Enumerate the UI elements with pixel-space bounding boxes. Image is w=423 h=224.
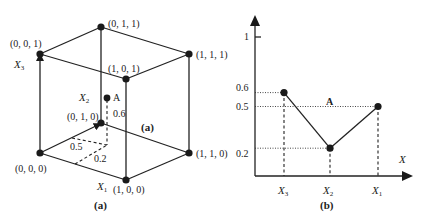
vertex-001 bbox=[36, 50, 43, 57]
caption-a: (a) bbox=[94, 199, 107, 212]
vertex-011 bbox=[97, 23, 104, 30]
label-100: (1, 0, 0) bbox=[113, 184, 145, 196]
figure: (0, 0, 0) (0, 1, 0) (0, 0, 1) (0, 1, 1) … bbox=[0, 0, 423, 224]
edge-011-111 bbox=[101, 27, 189, 54]
edge-100-110 bbox=[126, 153, 189, 180]
x-tick-label-x1: X1 bbox=[371, 184, 383, 198]
y-tick-label-0.6: 0.6 bbox=[236, 82, 249, 93]
axis-label-x1: X1 bbox=[96, 180, 108, 194]
data-point-X3 bbox=[280, 89, 287, 96]
x-axis-label: X bbox=[398, 153, 407, 165]
dim-label-x1: 0.2 bbox=[94, 153, 107, 164]
edge-000-100 bbox=[40, 153, 126, 180]
inner-caption-a: (a) bbox=[141, 121, 154, 134]
axis-label-x2: X2 bbox=[78, 91, 90, 105]
chart-point-a-label: A bbox=[326, 96, 334, 107]
y-tick-label-1: 1 bbox=[244, 31, 249, 42]
y-axis-arrow bbox=[250, 15, 260, 26]
edge-001-011 bbox=[40, 27, 101, 54]
vertex-110 bbox=[185, 149, 192, 156]
dim-label-x3: 0.6 bbox=[113, 108, 126, 119]
x-axis-arrow bbox=[402, 171, 413, 181]
label-110: (1, 1, 0) bbox=[196, 148, 228, 160]
chart-panel: 1 0.6 0.5 0.2 X X3 X2 X1 A (b) bbox=[236, 15, 413, 212]
label-000: (0, 0, 0) bbox=[15, 163, 47, 175]
label-010: (0, 1, 0) bbox=[67, 111, 99, 123]
point-a-label: A bbox=[113, 92, 121, 103]
caption-b: (b) bbox=[320, 199, 334, 212]
data-point-X1 bbox=[374, 103, 381, 110]
x-tick-label-x3: X3 bbox=[277, 184, 289, 198]
label-101: (1, 0, 1) bbox=[108, 63, 140, 75]
series-segment-1 bbox=[330, 107, 378, 149]
data-point-X2 bbox=[326, 145, 333, 152]
x-tick-label-x2: X2 bbox=[322, 184, 334, 198]
vertex-101 bbox=[122, 75, 129, 82]
label-001: (0, 0, 1) bbox=[10, 38, 42, 50]
vertex-111 bbox=[185, 50, 192, 57]
vertex-100 bbox=[122, 176, 129, 183]
dim-label-x2: 0.5 bbox=[70, 141, 83, 152]
point-a bbox=[104, 95, 111, 102]
y-tick-label-0.5: 0.5 bbox=[236, 101, 249, 112]
label-111: (1, 1, 1) bbox=[196, 49, 228, 61]
label-011: (0, 1, 1) bbox=[108, 18, 140, 30]
edge-000-010 bbox=[40, 125, 98, 153]
axis-label-x3: X3 bbox=[13, 58, 25, 72]
cube-panel: (0, 0, 0) (0, 1, 0) (0, 0, 1) (0, 1, 1) … bbox=[10, 18, 228, 212]
vertex-000 bbox=[36, 149, 43, 156]
series-segment-0 bbox=[284, 93, 330, 149]
y-tick-label-0.2: 0.2 bbox=[236, 148, 249, 159]
